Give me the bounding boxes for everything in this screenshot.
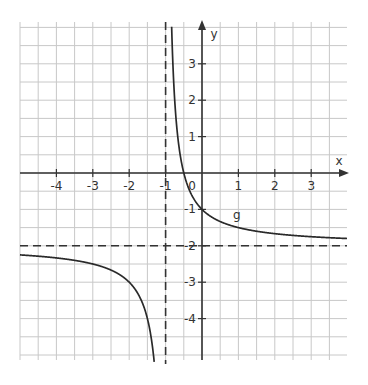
y-axis-arrow-icon: [198, 20, 206, 30]
curve-left-branch: [20, 255, 154, 362]
x-tick-label: -4: [50, 179, 62, 193]
x-axis-arrow-icon: [339, 169, 349, 177]
y-axis-label: y: [210, 27, 217, 41]
y-tick-label: -1: [184, 202, 196, 216]
y-tick-label: 2: [188, 93, 196, 107]
function-graph: -4-3-2-10123321-1-2-3-4xyg: [0, 0, 368, 385]
x-tick-label: 2: [271, 179, 279, 193]
y-tick-label: -3: [184, 275, 196, 289]
curve-right-branch: [172, 27, 347, 239]
x-axis-label: x: [335, 154, 342, 168]
y-tick-label: 1: [188, 130, 196, 144]
curve-label: g: [233, 208, 241, 222]
y-tick-label: 3: [188, 57, 196, 71]
x-tick-label: 1: [235, 179, 243, 193]
x-tick-label: -2: [123, 179, 135, 193]
x-tick-label: 3: [307, 179, 315, 193]
x-tick-label: -3: [87, 179, 99, 193]
y-tick-label: -4: [184, 312, 196, 326]
